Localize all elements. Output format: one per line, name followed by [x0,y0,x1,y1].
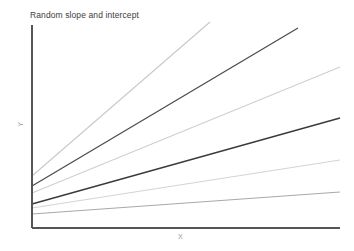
y-axis-label: Y [16,117,25,133]
series-lines [32,22,340,214]
chart-canvas [0,0,354,251]
chart-title: Random slope and intercept [30,10,139,21]
x-axis-label: X [178,232,183,241]
regression-line-3 [32,67,340,193]
regression-line-5 [32,160,340,208]
regression-line-1 [32,22,210,176]
regression-line-4 [32,118,340,204]
chart-axes [32,25,340,228]
regression-line-2 [32,28,298,186]
chart-figure: Random slope and intercept Y X [0,0,354,251]
regression-line-6 [32,192,340,214]
